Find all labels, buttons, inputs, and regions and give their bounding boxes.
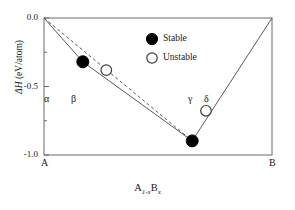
data-point-beta[interactable] bbox=[101, 65, 112, 76]
annotation-delta: δ bbox=[204, 93, 209, 104]
x-tick-label-a: A bbox=[41, 157, 48, 168]
x-axis-label-sub-a: 1-x bbox=[142, 188, 151, 196]
chart-plot-area bbox=[0, 0, 295, 210]
annotation-gamma: γ bbox=[188, 93, 192, 104]
y-axis-label-h: H bbox=[14, 81, 24, 88]
y-axis-label: ΔH (eV/atom) bbox=[14, 17, 24, 117]
y-axis-label-units: (eV/atom) bbox=[14, 40, 24, 79]
annotation-beta: β bbox=[71, 93, 76, 104]
x-tick-label-b: B bbox=[269, 157, 276, 168]
chart-figure: 0.0 -0.5 -1.0 A B ΔH (eV/atom) A1-xBx α … bbox=[0, 0, 295, 210]
y-axis-label-delta: Δ bbox=[14, 88, 24, 94]
x-axis-label: A1-xBx bbox=[0, 182, 295, 196]
data-point-gamma[interactable] bbox=[186, 135, 198, 147]
data-point-delta[interactable] bbox=[201, 106, 212, 117]
y-tick-label-2: -1.0 bbox=[6, 149, 38, 159]
data-point-alpha[interactable] bbox=[77, 56, 89, 68]
legend-marker-stable bbox=[146, 33, 157, 44]
annotation-alpha: α bbox=[44, 93, 49, 104]
legend-marker-unstable bbox=[147, 53, 157, 63]
x-axis-label-sub-b: x bbox=[158, 188, 161, 196]
x-axis-label-base-a: A bbox=[134, 182, 142, 193]
legend-label-unstable: Unstable bbox=[163, 52, 197, 62]
legend-label-stable: Stable bbox=[163, 33, 187, 43]
x-axis-label-base-b: B bbox=[151, 182, 158, 193]
